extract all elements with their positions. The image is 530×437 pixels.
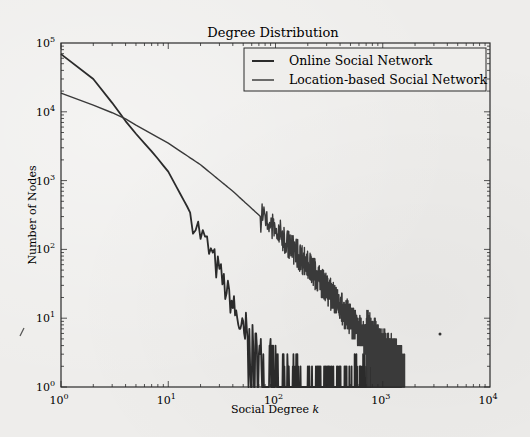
legend-label-online: Online Social Network xyxy=(289,53,433,68)
x-tick-label: 103 xyxy=(371,392,390,407)
x-tick-label: 101 xyxy=(157,392,176,407)
degree-distribution-chart: Degree Distribution 100101102103104 1001… xyxy=(0,0,530,437)
series-location-based-social-network xyxy=(61,93,405,387)
y-tick-label: 100 xyxy=(36,379,55,394)
legend: Online Social Network Location-based Soc… xyxy=(244,48,487,91)
x-axis-label-text: Social Degree xyxy=(231,403,313,416)
y-tick-label: 105 xyxy=(36,35,55,50)
x-axis-label: Social Degree k xyxy=(231,403,320,416)
y-tick-label: 101 xyxy=(36,310,55,325)
chart-title: Degree Distribution xyxy=(207,25,339,40)
legend-label-lbsn: Location-based Social Network xyxy=(289,72,487,87)
x-tick-label: 100 xyxy=(49,392,68,407)
y-tick-label: 104 xyxy=(36,104,55,119)
ticks-layer xyxy=(61,43,490,387)
y-axis-label: Number of Nodes xyxy=(26,165,39,264)
print-speck xyxy=(439,333,442,336)
series-online-social-network xyxy=(61,54,402,387)
x-tick-label: 104 xyxy=(478,392,497,407)
x-axis-variable: k xyxy=(312,403,319,416)
plot-frame xyxy=(61,43,490,387)
pen-mark xyxy=(20,328,24,336)
series-layer xyxy=(61,54,405,387)
